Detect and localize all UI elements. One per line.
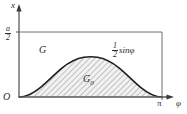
sine-region-figure: x φ O π a 2 G G0 1 2 sinφ [0, 0, 187, 114]
fraction-one-half: 1 2 [112, 42, 118, 59]
region-label-g0: G0 [83, 74, 94, 87]
x-axis-label: φ [176, 99, 181, 108]
coefficient-denominator: 2 [112, 51, 118, 59]
region-label-g: G [39, 45, 46, 55]
fraction-a-over-2: a 2 [5, 25, 11, 42]
fraction-denominator: 2 [5, 34, 11, 42]
sine-function-text: sinφ [119, 45, 134, 55]
region-label-g0-subscript: 0 [90, 79, 94, 87]
y-tick-label-a-over-2: a 2 [5, 24, 11, 42]
figure-canvas [0, 0, 187, 114]
y-axis-label: x [11, 1, 15, 10]
y-axis [16, 4, 21, 97]
curve-formula-label: 1 2 sinφ [112, 42, 134, 59]
origin-label: O [3, 92, 10, 102]
x-tick-label-pi: π [157, 99, 162, 108]
